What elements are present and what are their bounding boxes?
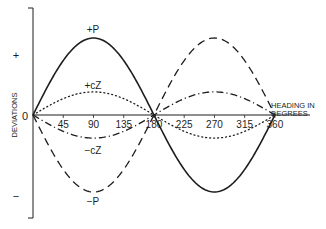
y-axis-label: DEVIATIONS [10, 93, 19, 138]
y-plus-sign: + [13, 49, 19, 61]
x-tick-label: 360 [267, 119, 284, 130]
x-tick-label: 180 [146, 119, 163, 130]
annotation-plus-p: +P [87, 24, 100, 35]
x-axis-label-line2: DEGREES [271, 109, 308, 118]
x-tick-labels: 4590135180225270315360 [58, 119, 284, 130]
x-tick-label: 45 [58, 119, 70, 130]
x-tick-label: 270 [206, 119, 223, 130]
x-tick-label: 315 [236, 119, 253, 130]
x-tick-label: 225 [176, 119, 193, 130]
annotation-plus-cz: +cZ [85, 80, 102, 91]
y-minus-sign: − [13, 190, 19, 202]
x-tick-label: 90 [88, 119, 100, 130]
x-tick-label: 135 [115, 119, 132, 130]
y-zero-label: 0 [22, 110, 28, 122]
annotation-minus-cz: −cZ [85, 145, 102, 156]
annotation-minus-p: −P [87, 196, 100, 207]
deviation-chart: DEVIATIONS + 0 − 4590135180225270315360 … [0, 0, 326, 229]
y-axis [28, 8, 33, 218]
